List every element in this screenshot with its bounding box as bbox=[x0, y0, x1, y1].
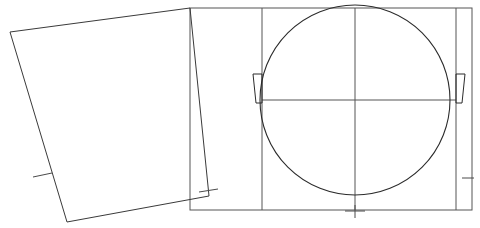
drawing-canvas bbox=[0, 0, 480, 228]
tick-square-left-edge bbox=[33, 173, 52, 177]
geometric-drawing bbox=[0, 0, 480, 228]
rotated-square bbox=[10, 8, 209, 222]
right-wedge bbox=[456, 74, 465, 103]
outer-rectangle bbox=[190, 8, 472, 210]
